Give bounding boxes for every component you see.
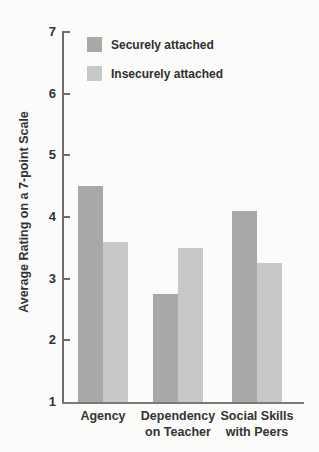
y-tick-label-7: 7 <box>30 24 56 40</box>
legend-item-securely-attached: Securely attached <box>87 37 223 52</box>
x-axis-label-line: with Peers <box>202 424 312 440</box>
x-axis-line <box>62 402 304 404</box>
y-tick-label-3: 3 <box>30 271 56 287</box>
bar-securely-attached-dependency-on-teacher <box>153 294 178 402</box>
y-tick-7 <box>62 31 70 33</box>
y-tick-label-2: 2 <box>30 332 56 348</box>
bar-securely-attached-agency <box>78 186 103 402</box>
bar-insecurely-attached-dependency-on-teacher <box>178 248 203 402</box>
bar-insecurely-attached-social-skills-with-peers <box>257 263 282 402</box>
y-tick-label-1: 1 <box>30 394 56 410</box>
legend-swatch-securely-attached <box>87 37 102 52</box>
y-tick-4 <box>62 216 70 218</box>
legend-label-insecurely-attached: Insecurely attached <box>111 67 223 81</box>
y-tick-5 <box>62 154 70 156</box>
y-tick-label-4: 4 <box>30 209 56 225</box>
legend: Securely attached Insecurely attached <box>87 37 223 81</box>
legend-swatch-insecurely-attached <box>87 66 102 81</box>
y-tick-2 <box>62 339 70 341</box>
y-tick-6 <box>62 93 70 95</box>
bar-insecurely-attached-agency <box>103 242 128 402</box>
x-axis-label-line: Social Skills <box>202 408 312 424</box>
x-axis-label-social-skills-with-peers: Social Skillswith Peers <box>202 408 312 440</box>
legend-item-insecurely-attached: Insecurely attached <box>87 66 223 81</box>
bar-securely-attached-social-skills-with-peers <box>232 211 257 402</box>
y-tick-label-5: 5 <box>30 147 56 163</box>
legend-label-securely-attached: Securely attached <box>111 38 214 52</box>
y-tick-3 <box>62 278 70 280</box>
y-tick-label-6: 6 <box>30 86 56 102</box>
bar-chart-figure: Average Rating on a 7-point Scale Agency… <box>0 0 319 452</box>
